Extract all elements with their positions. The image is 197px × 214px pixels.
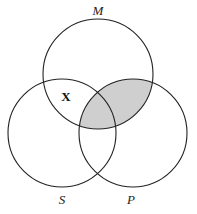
- venn-svg: [0, 0, 197, 214]
- label-s: S: [59, 193, 66, 206]
- x-mark: X: [61, 90, 70, 103]
- shaded-region-m-and-p: [43, 19, 153, 129]
- venn-diagram: M S P X: [0, 0, 197, 214]
- label-m: M: [93, 4, 104, 17]
- label-p: P: [127, 193, 135, 206]
